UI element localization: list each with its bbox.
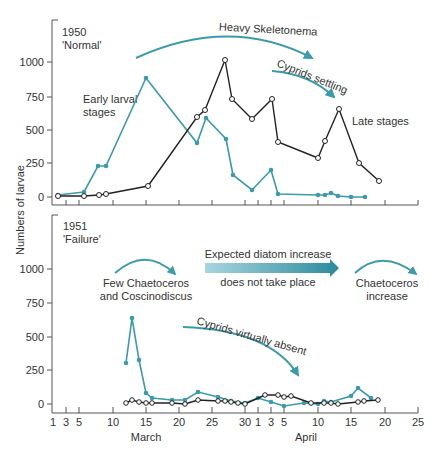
top-ytick-1000: 1000: [20, 56, 44, 68]
top-panel: 0 250 500 750 1000 1950 'Normal' H: [20, 20, 418, 205]
heavy-skeletonema-label: Heavy Skeletonema: [219, 20, 319, 37]
bottom-ytick-250: 250: [26, 364, 44, 376]
xtick-mar-3: 3: [63, 416, 69, 428]
chaetoceros-increase-arrow: [355, 261, 416, 274]
xtick-mar-10: 10: [107, 416, 119, 428]
expected-diatom-label-line2: does not take place: [220, 276, 315, 288]
bottom-y-ticks: 0 250 500 750 1000: [20, 263, 52, 410]
top-ytick-250: 250: [26, 157, 44, 169]
xtick-apr-1: 1: [255, 416, 261, 428]
few-chaetoceros-arrow: [115, 260, 175, 274]
top-ytick-0: 0: [38, 191, 44, 203]
xtick-mar-30: 30: [239, 416, 251, 428]
top-panel-status: 'Normal': [62, 39, 102, 51]
xtick-apr-5: 5: [281, 416, 287, 428]
month-label-april: April: [295, 431, 317, 443]
bottom-x-ticks: [66, 407, 418, 413]
month-label-march: March: [131, 431, 162, 443]
xtick-apr-10: 10: [312, 416, 324, 428]
bottom-ytick-1000: 1000: [20, 263, 44, 275]
xtick-mar-25: 25: [206, 416, 218, 428]
xtick-apr-15: 15: [345, 416, 357, 428]
xtick-mar-15: 15: [140, 416, 152, 428]
late-stages-label: Late stages: [352, 115, 409, 127]
cyprids-absent-label: Cyprids virtually absent: [195, 314, 308, 357]
xtick-mar-1: 1: [50, 416, 56, 428]
xtick-mar-20: 20: [173, 416, 185, 428]
xtick-apr-25: 25: [412, 416, 424, 428]
few-chaetoceros-label-line2: and Coscinodiscus: [100, 290, 193, 302]
bottom-ytick-500: 500: [26, 331, 44, 343]
cyprids-settling-label: Cyprids settling: [275, 57, 349, 96]
y-axis-label: Numbers of larvae: [14, 165, 26, 255]
bottom-panel-year: 1951: [63, 220, 87, 232]
chaetoceros-increase-label-line2: increase: [366, 290, 408, 302]
bottom-panel: 0 250 500 750 1000 1 3 5 10: [20, 215, 425, 443]
bottom-panel-status: 'Failure': [63, 233, 101, 245]
few-chaetoceros-label-line1: Few Chaetoceros: [103, 277, 190, 289]
bottom-ytick-750: 750: [26, 297, 44, 309]
early-larval-label-line2: stages: [83, 106, 116, 118]
top-panel-year: 1950: [62, 26, 86, 38]
early-larval-label-line1: Early larval: [83, 93, 137, 105]
chaetoceros-increase-label-line1: Chaetoceros: [356, 277, 419, 289]
xtick-apr-3: 3: [268, 416, 274, 428]
xtick-apr-20: 20: [379, 416, 391, 428]
top-x-ticks: [66, 200, 418, 205]
x-tick-labels: 1 3 5 10 15 20 25 30 1 3 5 10 15 20 25: [50, 416, 424, 428]
bottom-ytick-0: 0: [38, 398, 44, 410]
top-ytick-500: 500: [26, 124, 44, 136]
expected-diatom-arrow: [205, 259, 339, 277]
top-ytick-750: 750: [26, 91, 44, 103]
expected-diatom-label-line1: Expected diatom increase: [205, 248, 332, 260]
figure: 0 250 500 750 1000 1950 'Normal' H: [0, 0, 438, 452]
heavy-skeletonema-arrow: [136, 37, 312, 59]
xtick-mar-5: 5: [76, 416, 82, 428]
